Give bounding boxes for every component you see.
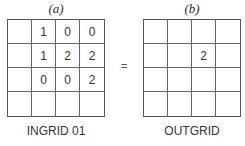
- grid-cell: [192, 68, 216, 92]
- grid-cell: [8, 92, 32, 116]
- panel-b-label: (b): [143, 1, 241, 17]
- grid-cell: [168, 44, 192, 68]
- grid-cell: 2: [80, 68, 104, 92]
- grid-cell: 0: [32, 68, 56, 92]
- panel-a-label: (a): [7, 1, 105, 17]
- equals-sign: =: [121, 60, 127, 72]
- grid-cell: [192, 20, 216, 44]
- grid-cell: [216, 44, 240, 68]
- grid-cell: 2: [192, 44, 216, 68]
- grid-cell: 1: [32, 44, 56, 68]
- grid-cell: [168, 92, 192, 116]
- grid-cell: [216, 20, 240, 44]
- outgrid-caption: OUTGRID: [143, 124, 241, 138]
- grid-cell: [32, 92, 56, 116]
- grid-cell: 0: [56, 68, 80, 92]
- grid-cell: [56, 92, 80, 116]
- grid-cell: 2: [56, 44, 80, 68]
- grid-cell: [80, 92, 104, 116]
- ingrid-caption: INGRID 01: [7, 124, 105, 138]
- grid-cell: 0: [56, 20, 80, 44]
- grid-cell: [8, 44, 32, 68]
- grid-cell: [192, 92, 216, 116]
- grid-cell: [216, 92, 240, 116]
- grid-cell: 2: [80, 44, 104, 68]
- grid-cell: [144, 44, 168, 68]
- grid-cell: [168, 20, 192, 44]
- grid-cell: [168, 68, 192, 92]
- grid-cell: 0: [80, 20, 104, 44]
- outgrid-grid: 2: [143, 19, 241, 117]
- grid-cell: [144, 92, 168, 116]
- grid-cell: [8, 20, 32, 44]
- grid-cell: [144, 68, 168, 92]
- grid-cell: [216, 68, 240, 92]
- grid-cell: 1: [32, 20, 56, 44]
- grid-cell: [8, 68, 32, 92]
- ingrid-grid: 1 0 0 1 2 2 0 0 2: [7, 19, 105, 117]
- grid-cell: [144, 20, 168, 44]
